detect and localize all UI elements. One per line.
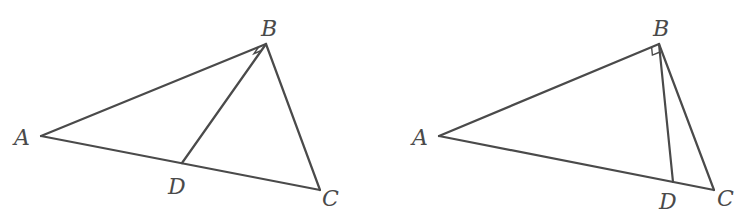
figure-right: B A D C <box>410 16 734 214</box>
label-B: B <box>652 16 669 41</box>
figure-left: B A D C <box>12 16 339 211</box>
label-A: A <box>410 125 428 150</box>
label-C: C <box>717 186 734 211</box>
label-B: B <box>260 16 277 41</box>
segment-BC <box>266 44 320 190</box>
segment-AB <box>439 44 659 136</box>
label-C: C <box>322 186 339 211</box>
label-A: A <box>12 125 30 150</box>
label-D: D <box>167 174 186 199</box>
label-D: D <box>658 189 677 214</box>
geometry-diagram: B A D C B A D C <box>0 0 748 220</box>
